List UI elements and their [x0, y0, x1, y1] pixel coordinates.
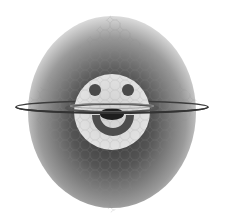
artwork-canvas — [0, 0, 225, 224]
right-eye — [122, 84, 134, 96]
left-eye — [89, 84, 101, 96]
mouth — [100, 108, 124, 120]
planet-illustration — [0, 0, 225, 224]
